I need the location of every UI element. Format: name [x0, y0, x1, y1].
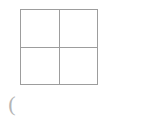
page-canvas: (	[0, 0, 145, 117]
two-by-two-grid	[20, 9, 98, 85]
grid-cell-bottom-left[interactable]	[21, 48, 59, 84]
grid-cell-top-right[interactable]	[60, 10, 97, 47]
grid-cell-bottom-right[interactable]	[60, 48, 97, 84]
open-parenthesis-mark: (	[5, 92, 19, 116]
grid-cell-top-left[interactable]	[21, 10, 59, 47]
grid-divider-horizontal	[21, 47, 97, 48]
